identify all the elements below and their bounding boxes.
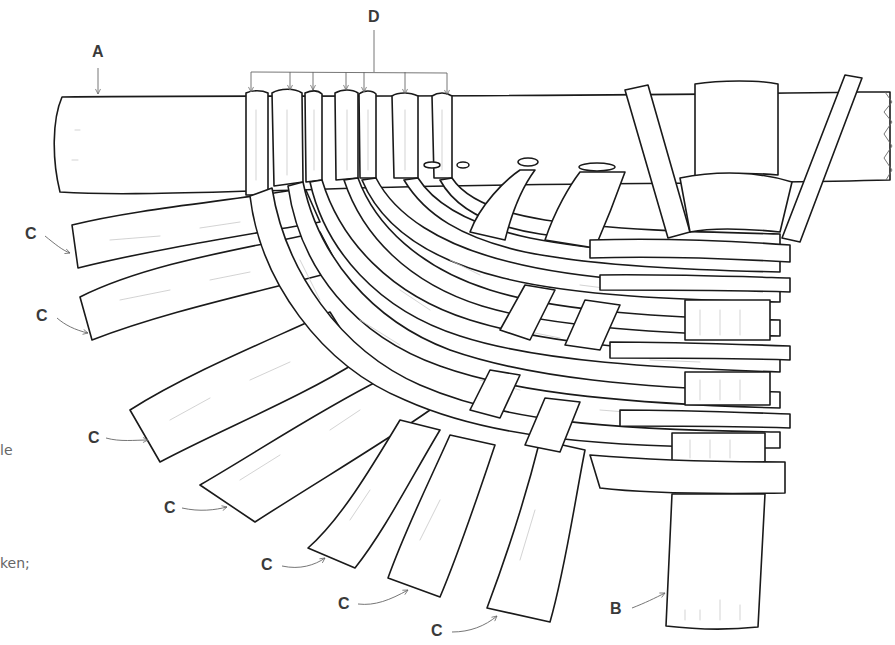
label-a: A [92,44,104,60]
caption-fragment-2: ken; [0,556,30,570]
label-c-3: C [88,430,100,446]
label-c-6: C [338,596,350,612]
label-c-1: C [25,226,37,242]
caption-fragment-1: le [0,443,13,457]
label-c-5: C [261,557,273,573]
woven-binding-illustration: D A C C C C C C C B le ken; [0,0,895,645]
label-b: B [610,601,622,617]
d-bracket [251,30,447,95]
label-c-2: C [36,308,48,324]
label-c-4: C [164,500,176,516]
illustration-drawing [0,0,895,645]
block-b [666,494,765,629]
label-d: D [368,9,380,25]
label-c-7: C [431,623,443,639]
